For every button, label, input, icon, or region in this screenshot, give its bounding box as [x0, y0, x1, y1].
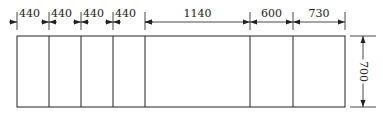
arrowhead-icon [49, 20, 56, 25]
dimension-drawing: 4404404404401140600730 700 [0, 0, 383, 118]
arrowhead-icon [106, 20, 113, 25]
dimension-1140: 1140 [145, 7, 250, 25]
arrowhead-icon [361, 100, 366, 107]
dimension-label: 440 [51, 7, 72, 20]
outer-rectangle [17, 36, 345, 107]
arrowhead-icon [293, 20, 300, 25]
arrowhead-icon [145, 20, 152, 25]
dimension-730: 730 [293, 7, 345, 25]
dimension-440: 440 [9, 7, 57, 25]
dimension-label: 1140 [184, 7, 212, 20]
dimension-label: 440 [115, 7, 136, 20]
arrowhead-icon [81, 20, 88, 25]
dimension-440: 440 [73, 7, 121, 25]
dimension-label: 440 [19, 7, 40, 20]
arrowhead-icon [10, 20, 17, 25]
arrowhead-icon [113, 20, 120, 25]
arrowhead-icon [74, 20, 81, 25]
panel-rectangle [17, 36, 345, 107]
arrowhead-icon [286, 20, 293, 25]
arrowhead-icon [250, 20, 257, 25]
horizontal-dimensions: 4404404404401140600730 [9, 7, 345, 30]
arrowhead-icon [42, 20, 49, 25]
arrowhead-icon [338, 20, 345, 25]
vertical-dimension: 700 [350, 36, 376, 107]
dimension-600: 600 [250, 7, 293, 25]
arrowhead-icon [361, 36, 366, 43]
dimension-440: 440 [41, 7, 89, 25]
dimension-label: 440 [83, 7, 104, 20]
arrowhead-icon [243, 20, 250, 25]
dimension-label: 600 [261, 7, 282, 20]
dimension-label-700: 700 [357, 61, 370, 82]
dimension-label: 730 [309, 7, 330, 20]
